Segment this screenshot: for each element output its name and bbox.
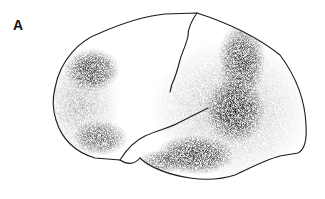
region-frontal-lower <box>72 120 128 156</box>
region-band-mid <box>205 76 265 144</box>
brain-illustration <box>0 0 325 199</box>
region-frontal-upper <box>64 48 120 92</box>
stipple-shading <box>40 22 310 180</box>
